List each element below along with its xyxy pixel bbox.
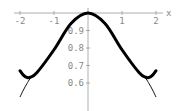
x-tick-label: 2 bbox=[153, 16, 158, 26]
x-axis-label: x bbox=[166, 8, 172, 18]
x-tick-label: -1 bbox=[49, 16, 60, 26]
y-tick-label: 0.9 bbox=[68, 26, 84, 36]
y-ticks: 0.90.80.70.6 bbox=[68, 26, 90, 89]
y-tick-label: 0.6 bbox=[68, 78, 84, 88]
x-tick-label: 1 bbox=[119, 16, 124, 26]
x-tick-label: -2 bbox=[15, 16, 26, 26]
plot: -2-112 0.90.80.70.6 x bbox=[0, 0, 176, 111]
y-tick-label: 0.7 bbox=[68, 61, 84, 71]
y-tick-label: 0.8 bbox=[68, 43, 84, 53]
